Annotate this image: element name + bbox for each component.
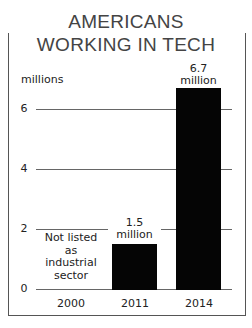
y-tick-4: 4 — [18, 162, 30, 175]
y-tick-6: 6 — [18, 102, 30, 115]
bar-label-2011-unit: million — [108, 229, 161, 241]
bar-label-2011: 1.5 million — [108, 217, 161, 241]
bar-2011 — [112, 244, 157, 290]
title-line1-text: AMERICANS — [66, 11, 186, 32]
y-tick-2: 2 — [18, 222, 30, 235]
x-label-2000: 2000 — [46, 297, 96, 310]
note-2000: Not listed as industrial sector — [42, 232, 100, 282]
chart-title-line2: WORKING IN TECH — [0, 34, 252, 56]
y-tick-0: 0 — [18, 282, 30, 295]
chart-title-line1: AMERICANS — [0, 11, 252, 33]
bar-2014 — [176, 88, 221, 290]
x-label-2014: 2014 — [174, 297, 224, 310]
y-axis-unit-label: millions — [21, 73, 63, 86]
x-label-2011: 2011 — [110, 297, 160, 310]
bar-label-2014: 6.7 million — [172, 63, 225, 87]
bar-label-2014-unit: million — [172, 75, 225, 87]
